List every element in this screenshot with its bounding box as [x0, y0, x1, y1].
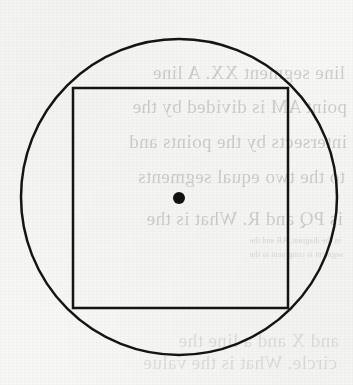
figure-canvas [0, 0, 353, 385]
geometry-figure [0, 0, 353, 385]
center-point-dot [173, 192, 185, 204]
scanned-page: line segment XX. A line point AM is divi… [0, 0, 353, 385]
